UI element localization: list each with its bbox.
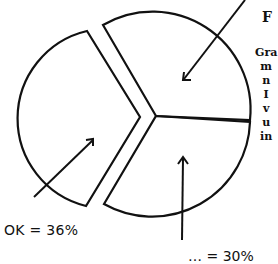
side-caption-line: v [255,102,277,116]
arrow-bottom [182,158,183,240]
arrow-left [34,140,93,197]
slice-label-bottom: … = 30% [188,248,254,264]
side-caption-line: n [255,74,277,88]
slice-label-top: F [262,9,272,25]
side-caption: Gra m n I v u in [255,46,277,144]
side-caption-line: u [255,116,277,130]
side-caption-line: m [255,60,277,74]
side-caption-line: I [255,88,277,102]
arrow-top-right [184,0,245,79]
pie-slice-top-right [103,12,251,120]
side-caption-line: in [255,130,277,144]
slice-label-ok: OK = 36% [4,222,78,238]
pie-slice-bottom [104,116,250,217]
side-caption-line: Gra [255,46,277,60]
